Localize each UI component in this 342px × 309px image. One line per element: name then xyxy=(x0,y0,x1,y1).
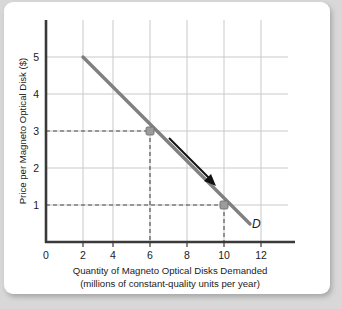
y-tick-label-4: 4 xyxy=(33,88,39,100)
chart-svg: 5 4 3 2 1 0 2 4 6 8 10 12 D Quantity of … xyxy=(0,0,342,309)
demand-curve-line xyxy=(83,57,250,224)
y-tick-label-3: 3 xyxy=(33,125,39,137)
x-tick-label-2: 2 xyxy=(80,249,86,261)
demand-curve-label: D xyxy=(252,217,261,231)
y-tick-label-5: 5 xyxy=(33,51,39,63)
data-point-marker-6-3 xyxy=(146,127,154,135)
guide-lines xyxy=(46,131,224,242)
data-point-marker-10-1 xyxy=(220,201,228,209)
x-tick-label-4: 4 xyxy=(110,249,116,261)
x-tick-label-8: 8 xyxy=(184,249,190,261)
x-tick-label-6: 6 xyxy=(147,249,153,261)
x-tick-label-12: 12 xyxy=(255,249,267,261)
x-axis-title-line1: Quantity of Magneto Optical Disks Demand… xyxy=(73,265,268,276)
y-tick-label-2: 2 xyxy=(33,162,39,174)
arrow-shaft xyxy=(169,138,212,181)
demand-curve-chart: 5 4 3 2 1 0 2 4 6 8 10 12 D Quantity of … xyxy=(0,0,342,309)
x-tick-label-0: 0 xyxy=(43,249,49,261)
y-tick-label-1: 1 xyxy=(33,199,39,211)
x-tick-label-10: 10 xyxy=(218,249,230,261)
x-axis-title-line2: (millions of constant-quality units per … xyxy=(80,278,260,289)
movement-along-curve-arrow xyxy=(169,138,216,186)
y-axis-title: Price per Magneto Optical Disk ($) xyxy=(17,58,28,205)
